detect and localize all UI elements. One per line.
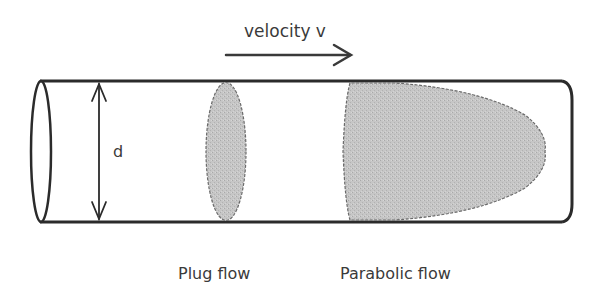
plug-flow-profile [206, 83, 246, 221]
velocity-arrow-icon [226, 45, 351, 65]
diameter-label: d [113, 142, 123, 161]
diameter-arrow-icon [92, 84, 106, 219]
velocity-label: velocity v [244, 21, 326, 41]
parabolic-flow-profile [343, 83, 545, 220]
pipe-flow-diagram: velocity v d Plug flow Parabolic flow [0, 0, 599, 302]
pipe-right-end [562, 81, 572, 222]
parabolic-flow-label: Parabolic flow [340, 264, 451, 283]
plug-flow-label: Plug flow [178, 264, 250, 283]
pipe-left-opening [31, 81, 51, 222]
